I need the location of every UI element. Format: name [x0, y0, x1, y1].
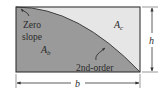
b-dimension-label: b [75, 78, 80, 89]
zero-slope-label-line2: slope [22, 32, 42, 42]
spandrel-diagram: Zero slope Ab Ac 2nd-order h b [0, 0, 166, 95]
curve-order-label: 2nd-order [76, 63, 114, 73]
h-dimension-label: h [149, 35, 154, 46]
zero-slope-label-line1: Zero [23, 20, 41, 30]
a-b-subscript: b [47, 49, 51, 57]
